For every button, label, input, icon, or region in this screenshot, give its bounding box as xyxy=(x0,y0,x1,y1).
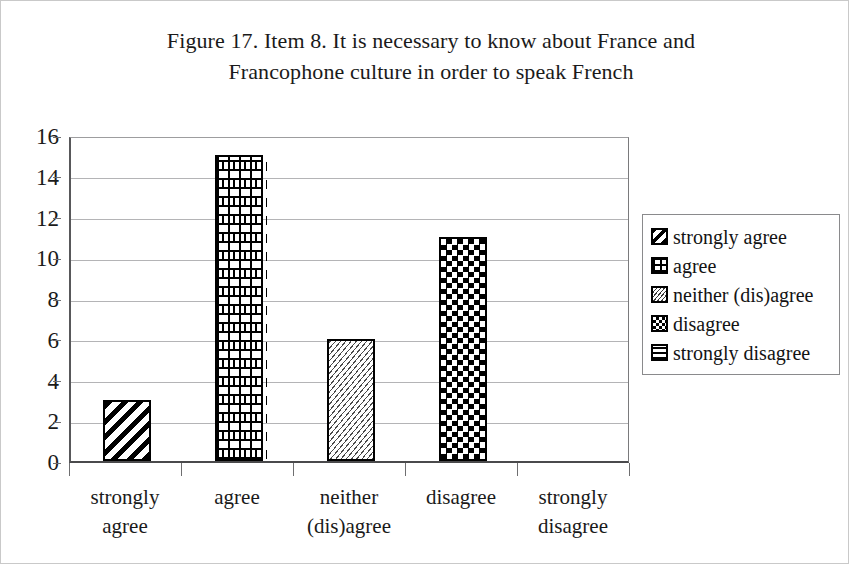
x-axis-category-label: stronglydisagree xyxy=(517,483,629,541)
title-line-1: Figure 17. Item 8. It is necessary to kn… xyxy=(61,25,801,56)
x-axis-tick-mark xyxy=(293,463,294,476)
y-axis-tick-mark xyxy=(53,300,61,301)
y-axis-tick-mark xyxy=(53,340,61,341)
x-axis-category-label: disagree xyxy=(405,483,517,512)
x-axis-label-line: agree xyxy=(69,512,181,541)
x-axis-tick-mark xyxy=(69,463,70,476)
bar-strongly-agree xyxy=(103,400,151,461)
legend-item-strongly-agree: strongly agree xyxy=(651,222,833,251)
legend-item-label: neither (dis)agree xyxy=(673,284,813,306)
x-axis-tick-mark xyxy=(629,463,630,476)
y-axis-tick-mark xyxy=(53,259,61,260)
x-axis-label-line: disagree xyxy=(405,483,517,512)
legend-item-disagree: disagree xyxy=(651,309,833,338)
x-axis-label-line: strongly xyxy=(69,483,181,512)
x-axis-category-label: stronglyagree xyxy=(69,483,181,541)
x-axis-label-line: strongly xyxy=(517,483,629,512)
legend-item-strongly-disagree: strongly disagree xyxy=(651,338,833,367)
x-axis-category-label: agree xyxy=(181,483,293,512)
legend-item-label: agree xyxy=(673,255,716,277)
legend-swatch-diagonal-icon xyxy=(651,228,668,245)
y-axis-tick-mark xyxy=(53,137,61,138)
gridline xyxy=(71,260,628,261)
bar-agree xyxy=(215,155,263,461)
x-axis-label-line: (dis)agree xyxy=(293,512,405,541)
legend-swatch-checker-icon xyxy=(651,315,668,332)
gridline xyxy=(71,301,628,302)
page-title: Figure 17. Item 8. It is necessary to kn… xyxy=(61,25,801,87)
plot-area xyxy=(69,137,629,463)
y-axis-tick-mark xyxy=(53,177,61,178)
bar-disagree xyxy=(439,237,487,461)
x-axis-tick-mark xyxy=(181,463,182,476)
gridline xyxy=(71,219,628,220)
y-axis: 1614121086420 xyxy=(1,137,59,463)
figure-container: Figure 17. Item 8. It is necessary to kn… xyxy=(0,0,849,564)
legend-item-neither-dis-agree: neither (dis)agree xyxy=(651,280,833,309)
x-axis-tick-mark xyxy=(405,463,406,476)
x-axis-category-label: neither(dis)agree xyxy=(293,483,405,541)
y-axis-tick-mark xyxy=(53,422,61,423)
legend-swatch-zigzag-icon xyxy=(651,286,668,303)
x-axis-tick-mark xyxy=(517,463,518,476)
x-axis-label-line: neither xyxy=(293,483,405,512)
legend-item-label: strongly disagree xyxy=(673,342,810,364)
legend-swatch-brick-icon xyxy=(651,257,668,274)
bar-neither-dis-agree xyxy=(327,339,375,461)
legend-item-label: strongly agree xyxy=(673,226,787,248)
y-axis-tick-mark xyxy=(53,381,61,382)
gridline xyxy=(71,178,628,179)
x-axis-label-line: disagree xyxy=(517,512,629,541)
y-axis-tick-mark xyxy=(53,218,61,219)
x-axis-label-line: agree xyxy=(181,483,293,512)
legend-item-agree: agree xyxy=(651,251,833,280)
y-axis-tick-mark xyxy=(53,463,61,464)
legend-item-label: disagree xyxy=(673,313,740,335)
title-line-2: Francophone culture in order to speak Fr… xyxy=(61,56,801,87)
legend-swatch-hlines-icon xyxy=(651,344,668,361)
chart-legend: strongly agreeagreeneither (dis)agreedis… xyxy=(642,214,840,375)
